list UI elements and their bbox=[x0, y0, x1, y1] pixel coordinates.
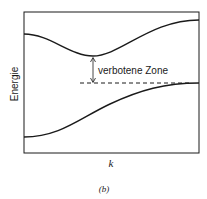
band-diagram: verbotene Zone Energie k (b) bbox=[0, 0, 207, 199]
x-axis-label: k bbox=[109, 157, 115, 169]
y-axis-label: Energie bbox=[9, 66, 20, 101]
forbidden-zone-label: verbotene Zone bbox=[98, 65, 168, 76]
gap-double-arrow-icon bbox=[91, 58, 96, 83]
upper-band-curve bbox=[24, 20, 199, 56]
lower-band-curve bbox=[24, 83, 199, 137]
figure-caption: (b) bbox=[99, 184, 110, 194]
